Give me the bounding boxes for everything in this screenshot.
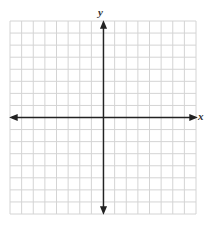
y-axis-up-arrow-icon	[101, 22, 106, 28]
y-axis-down-arrow-icon	[101, 207, 106, 213]
x-axis-left-arrow-icon	[11, 115, 17, 120]
x-axis-right-arrow-icon	[190, 115, 196, 120]
axes	[11, 22, 196, 213]
y-axis-label: y	[98, 6, 103, 18]
coordinate-plane	[0, 0, 208, 227]
x-axis-label: x	[198, 110, 204, 122]
